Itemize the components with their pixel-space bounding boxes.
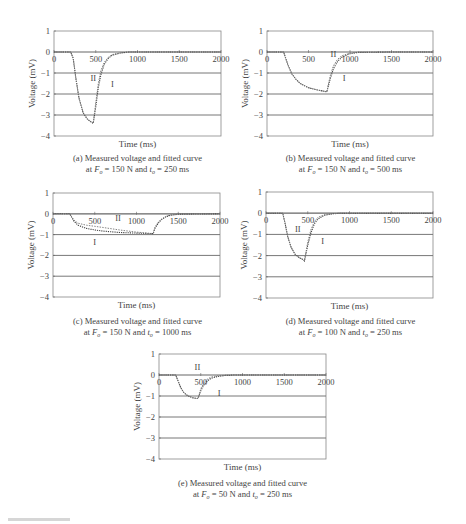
svg-text:−2: −2 (146, 412, 155, 422)
svg-text:I: I (111, 79, 114, 89)
panel-c: 10−1−2−3−40500100015002000Time (ms)Volta… (0, 180, 233, 350)
svg-text:−3: −3 (40, 271, 49, 281)
svg-text:0: 0 (259, 47, 263, 57)
svg-text:Voltage (mV): Voltage (mV) (239, 220, 249, 269)
svg-text:I: I (218, 388, 221, 398)
svg-text:Voltage (mV): Voltage (mV) (240, 59, 250, 108)
panel-b: 10−1−2−3−40500100015002000Time (ms)Volta… (233, 0, 466, 180)
svg-text:1: 1 (151, 349, 155, 359)
svg-text:0: 0 (46, 47, 50, 57)
svg-text:Time (ms): Time (ms) (224, 462, 261, 472)
svg-text:1000: 1000 (341, 215, 358, 225)
panel-a: 10−1−2−3−40500100015002000Time (ms)Volta… (0, 0, 233, 180)
caption-b-params: at Fo = 150 N and to = 500 ms (253, 164, 448, 178)
svg-text:1000: 1000 (129, 54, 146, 64)
svg-text:1000: 1000 (128, 216, 145, 226)
svg-text:−4: −4 (253, 293, 263, 303)
svg-text:2000: 2000 (212, 216, 229, 226)
svg-text:Voltage (mV): Voltage (mV) (26, 220, 36, 269)
svg-text:II: II (115, 213, 121, 223)
caption-d-params: at Fo = 100 N and to = 250 ms (253, 327, 448, 341)
svg-text:−2: −2 (254, 89, 263, 99)
figure-label-bar (8, 518, 70, 521)
panel-d: 10−1−2−3−40500100015002000Time (ms)Volta… (233, 180, 466, 350)
svg-text:−3: −3 (253, 272, 262, 282)
svg-text:−3: −3 (254, 110, 263, 120)
svg-text:−3: −3 (41, 110, 50, 120)
svg-text:Voltage (mV): Voltage (mV) (132, 382, 142, 431)
caption-d: (d) Measured voltage and fitted curve at… (253, 316, 448, 341)
svg-text:−1: −1 (41, 68, 50, 78)
svg-text:2000: 2000 (213, 54, 230, 64)
svg-text:1500: 1500 (276, 377, 293, 387)
svg-text:0: 0 (45, 209, 49, 219)
svg-text:1500: 1500 (383, 54, 400, 64)
svg-text:1500: 1500 (383, 215, 400, 225)
svg-text:1: 1 (258, 187, 262, 197)
svg-text:−3: −3 (146, 433, 155, 443)
caption-c-params: at Fo = 150 N and to = 1000 ms (40, 327, 235, 341)
svg-text:II: II (195, 362, 201, 372)
svg-text:−1: −1 (146, 391, 155, 401)
svg-text:0: 0 (157, 377, 161, 387)
svg-text:500: 500 (302, 54, 315, 64)
caption-e-params: at Fo = 50 N and to = 250 ms (145, 489, 340, 503)
chart-e: 10−1−2−3−40500100015002000Time (ms)Volta… (120, 350, 360, 490)
svg-text:1000: 1000 (234, 377, 251, 387)
svg-text:I: I (93, 237, 96, 247)
svg-text:−1: −1 (254, 68, 263, 78)
svg-text:−4: −4 (146, 454, 156, 464)
svg-text:1: 1 (259, 26, 263, 36)
chart-a: 10−1−2−3−40500100015002000Time (ms)Volta… (0, 0, 233, 150)
caption-a-params: at Fo = 150 N and to = 250 ms (40, 164, 235, 178)
panel-e: 10−1−2−3−40500100015002000Time (ms)Volta… (120, 350, 360, 524)
svg-text:2000: 2000 (425, 215, 442, 225)
caption-e: (e) Measured voltage and fitted curve at… (145, 478, 340, 503)
svg-text:0: 0 (258, 208, 262, 218)
svg-text:Voltage (mV): Voltage (mV) (27, 59, 37, 108)
svg-text:−2: −2 (41, 89, 50, 99)
svg-text:−1: −1 (253, 229, 262, 239)
chart-c: 10−1−2−3−40500100015002000Time (ms)Volta… (0, 180, 233, 320)
svg-text:0: 0 (264, 215, 268, 225)
svg-text:II: II (295, 224, 301, 234)
svg-text:Time (ms): Time (ms) (119, 139, 156, 149)
svg-text:1: 1 (45, 188, 49, 198)
svg-text:−4: −4 (254, 131, 264, 141)
svg-text:I: I (343, 73, 346, 83)
svg-text:500: 500 (89, 54, 102, 64)
svg-text:0: 0 (52, 54, 56, 64)
svg-text:−2: −2 (253, 251, 262, 261)
caption-b: (b) Measured voltage and fitted curve at… (253, 153, 448, 178)
svg-text:1000: 1000 (342, 54, 359, 64)
svg-text:1500: 1500 (171, 54, 188, 64)
svg-text:2000: 2000 (425, 54, 442, 64)
svg-text:500: 500 (194, 377, 207, 387)
svg-text:2000: 2000 (318, 377, 335, 387)
chart-d: 10−1−2−3−40500100015002000Time (ms)Volta… (233, 180, 466, 320)
svg-text:0: 0 (265, 54, 269, 64)
svg-text:−2: −2 (40, 250, 49, 260)
svg-text:500: 500 (88, 216, 101, 226)
svg-text:Time (ms): Time (ms) (331, 301, 368, 311)
svg-text:0: 0 (51, 216, 55, 226)
svg-text:Time (ms): Time (ms) (118, 300, 155, 310)
svg-text:−1: −1 (40, 230, 49, 240)
caption-c: (c) Measured voltage and fitted curve at… (40, 316, 235, 341)
caption-a: (a) Measured voltage and fitted curve at… (40, 153, 235, 178)
svg-text:I: I (321, 236, 324, 246)
svg-text:0: 0 (151, 370, 155, 380)
svg-text:500: 500 (301, 215, 314, 225)
chart-b: 10−1−2−3−40500100015002000Time (ms)Volta… (233, 0, 466, 150)
svg-text:II: II (90, 73, 96, 83)
svg-text:II: II (331, 49, 337, 59)
svg-text:1500: 1500 (170, 216, 187, 226)
svg-text:1: 1 (46, 26, 50, 36)
svg-text:−4: −4 (40, 292, 50, 302)
svg-text:−4: −4 (41, 131, 51, 141)
svg-text:Time (ms): Time (ms) (331, 139, 368, 149)
